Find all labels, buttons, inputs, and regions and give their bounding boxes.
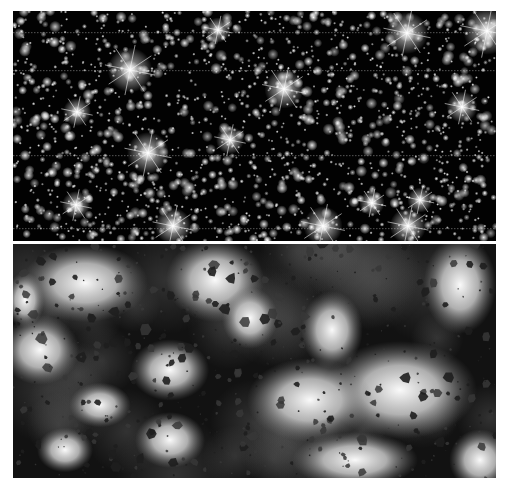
star-field-canvas (13, 11, 496, 241)
background-map-canvas (13, 244, 496, 478)
background-map-image (13, 244, 496, 478)
star-field-image (13, 11, 496, 241)
